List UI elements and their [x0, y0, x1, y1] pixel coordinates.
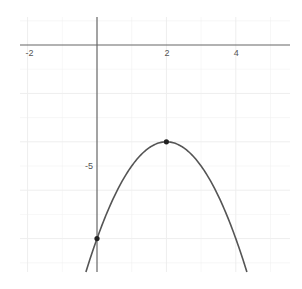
y-tick-label: -5: [85, 161, 93, 171]
x-tick-label: 4: [234, 48, 239, 58]
x-tick-label: -2: [26, 48, 34, 58]
y-intercept-point: [94, 236, 99, 241]
tick-labels: -224-5: [26, 48, 239, 171]
vertex-point: [164, 139, 169, 144]
function-graph: -224-5: [0, 0, 302, 289]
x-tick-label: 2: [164, 48, 169, 58]
